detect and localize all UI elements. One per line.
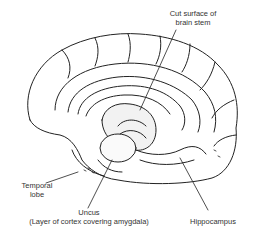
brain-illustration <box>0 0 256 239</box>
leader-uncus <box>88 160 112 208</box>
label-hippocampus-text: Hippocampus <box>180 217 246 226</box>
label-temporal-lobe: Temporal lobe <box>14 181 60 199</box>
brain-diagram: Cut surface of brain stem Temporal lobe … <box>0 0 256 239</box>
label-hippocampus: Hippocampus <box>180 217 246 226</box>
label-cut-surface-line1: Cut surface of <box>158 9 228 18</box>
label-cut-surface: Cut surface of brain stem <box>158 9 228 27</box>
label-uncus: Uncus (Layer of cortex covering amygdala… <box>14 208 164 226</box>
label-temporal-line2: lobe <box>14 190 60 199</box>
label-temporal-line1: Temporal <box>14 181 60 190</box>
label-uncus-description: (Layer of cortex covering amygdala) <box>14 217 164 226</box>
label-uncus-title: Uncus <box>14 208 164 217</box>
label-cut-surface-line2: brain stem <box>158 18 228 27</box>
leader-hippocampus <box>180 158 208 210</box>
